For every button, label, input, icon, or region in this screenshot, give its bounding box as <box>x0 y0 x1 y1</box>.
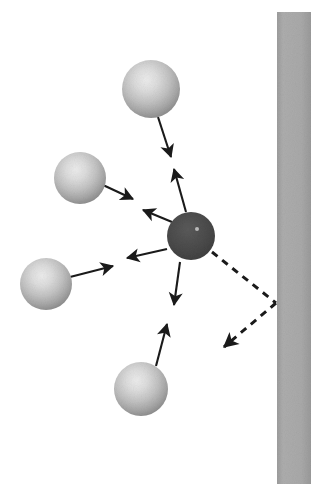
central-particle-group <box>167 212 215 260</box>
neighbor-lower-left <box>20 258 72 310</box>
neighbor-upper-left <box>54 152 106 204</box>
central-particle <box>167 212 215 260</box>
dashed-segment-reflected <box>224 303 276 347</box>
wall-barrier-group <box>277 12 311 484</box>
arrow-center-toward-top <box>174 169 186 212</box>
neighbor-top <box>122 60 180 118</box>
arrow-center-toward-bottom <box>174 262 180 305</box>
arrow-center-toward-upper-left <box>143 210 172 222</box>
diagram-canvas <box>0 0 327 484</box>
arrow-bottom-neighbor-inward <box>156 324 167 366</box>
arrow-upper-left-inward <box>103 185 133 199</box>
arrow-top-neighbor-inward <box>158 117 171 157</box>
central-particle-highlight <box>195 227 199 231</box>
dashed-segment-incoming <box>212 252 276 303</box>
wall-reflection-path <box>212 252 276 347</box>
arrow-center-toward-lower-left <box>127 249 167 258</box>
arrow-lower-left-inward <box>70 266 113 277</box>
wall-barrier <box>277 12 311 484</box>
neighbor-bottom <box>114 362 168 416</box>
particle-diagram-figure: Diagram of a dark central particle surro… <box>0 0 327 484</box>
